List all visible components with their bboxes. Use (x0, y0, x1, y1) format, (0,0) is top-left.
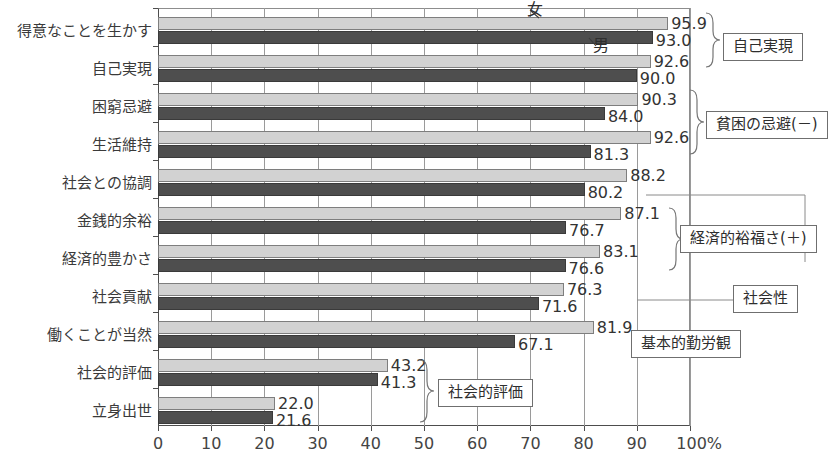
value-label-female: 87.1 (624, 206, 660, 222)
category-label: 社会との協調 (0, 175, 152, 191)
x-tick-label: 0 (153, 435, 163, 452)
x-tick-label: 40 (361, 435, 381, 452)
row-tick (153, 122, 158, 123)
annotation-basic-work-ethic: 基本的勤労観 (631, 330, 741, 358)
row-tick (153, 312, 158, 313)
bar-row (158, 397, 690, 425)
row-tick (153, 46, 158, 47)
row-tick (153, 84, 158, 85)
value-label-female: 88.2 (630, 168, 666, 184)
value-label-male: 84.0 (608, 109, 644, 125)
value-label-male: 76.6 (569, 261, 605, 277)
x-tick-label: 30 (307, 435, 327, 452)
bar-row (158, 17, 690, 45)
value-label-male: 71.6 (542, 299, 578, 315)
bar-male (158, 69, 637, 82)
value-label-female: 81.9 (597, 320, 633, 336)
x-tick-label: 10 (201, 435, 221, 452)
x-tick-20 (264, 426, 265, 431)
x-tick-30 (318, 426, 319, 431)
bar-row (158, 283, 690, 311)
bar-row (158, 207, 690, 235)
category-label: 得意なことを生かす (0, 23, 152, 39)
value-label-female: 92.6 (654, 130, 690, 146)
x-tick-10 (211, 426, 212, 431)
bar-female (158, 93, 638, 106)
category-label: 自己実現 (0, 61, 152, 77)
category-label: 働くことが当然 (0, 327, 152, 343)
bar-female (158, 321, 594, 334)
annotation-social-evaluation: 社会的評価 (438, 379, 533, 407)
category-label: 金銭的余裕 (0, 213, 152, 229)
x-tick-label: 90 (627, 435, 647, 452)
series-callout-female: 女 (527, 2, 543, 18)
row-tick (153, 8, 158, 9)
bar-male (158, 31, 653, 44)
bar-male (158, 183, 585, 196)
value-label-male: 81.3 (594, 147, 630, 163)
value-label-female: 83.1 (603, 244, 639, 260)
x-tick-0 (158, 426, 159, 431)
x-tick-label: 100% (676, 435, 722, 452)
x-tick-80 (584, 426, 585, 431)
value-label-female: 43.2 (391, 358, 427, 374)
bar-male (158, 259, 566, 272)
bar-male (158, 411, 273, 424)
x-tick-50 (424, 426, 425, 431)
row-tick (153, 388, 158, 389)
bar-male (158, 335, 515, 348)
bar-female (158, 207, 621, 220)
row-tick (153, 160, 158, 161)
bar-row (158, 55, 690, 83)
bar-female (158, 359, 388, 372)
annotation-sociality: 社会性 (733, 285, 798, 313)
series-callout-male: 男 (593, 38, 609, 54)
value-label-male: 93.0 (656, 33, 692, 49)
annotation-economic-wealth: 経済的裕福さ(＋) (680, 225, 817, 253)
category-label: 困窮忌避 (0, 99, 152, 115)
bar-female (158, 55, 651, 68)
bar-male (158, 107, 605, 120)
bar-female (158, 131, 651, 144)
brace-poverty-avoidance (690, 90, 704, 154)
x-tick-60 (477, 426, 478, 431)
x-tick-label: 70 (520, 435, 540, 452)
bar-female (158, 283, 564, 296)
value-label-male: 67.1 (518, 337, 554, 353)
category-label: 社会貢献 (0, 289, 152, 305)
x-tick-label: 60 (467, 435, 487, 452)
row-tick (153, 236, 158, 237)
row-tick (153, 350, 158, 351)
annotation-poverty-avoidance: 貧困の忌避(－) (706, 111, 828, 139)
category-label: 生活維持 (0, 137, 152, 153)
category-label: 立身出世 (0, 403, 152, 419)
bar-male (158, 145, 591, 158)
value-label-female: 22.0 (278, 396, 314, 412)
bar-female (158, 245, 600, 258)
brace-self-realization (706, 13, 720, 67)
x-tick-40 (371, 426, 372, 431)
row-tick (153, 198, 158, 199)
bar-male (158, 221, 566, 234)
bar-female (158, 169, 627, 182)
x-tick-70 (530, 426, 531, 431)
category-axis: 得意なことを生かす自己実現困窮忌避生活維持社会との協調金銭的余裕経済的豊かさ社会… (0, 0, 154, 468)
bar-female (158, 17, 668, 30)
category-label: 社会的評価 (0, 365, 152, 381)
bar-male (158, 373, 378, 386)
annotation-self-realization: 自己実現 (723, 33, 803, 61)
value-label-female: 90.3 (641, 92, 677, 108)
x-tick-label: 20 (254, 435, 274, 452)
category-label: 経済的豊かさ (0, 251, 152, 267)
value-label-male: 90.0 (640, 71, 676, 87)
value-label-male: 41.3 (381, 375, 417, 391)
x-tick-100 (690, 426, 691, 431)
value-label-male: 21.6 (276, 413, 312, 429)
bar-male (158, 297, 539, 310)
value-label-male: 76.7 (569, 223, 605, 239)
bar-female (158, 397, 275, 410)
x-tick-label: 80 (573, 435, 593, 452)
gridline-100 (690, 8, 691, 426)
value-label-female: 76.3 (567, 282, 603, 298)
